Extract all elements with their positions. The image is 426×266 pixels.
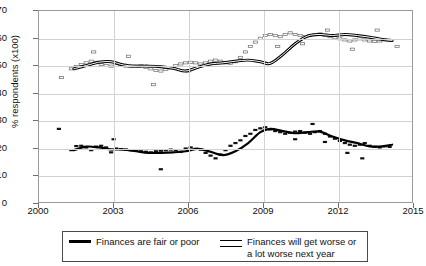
- data-point-marker: [154, 69, 158, 71]
- y-axis-tick-label: 30: [0, 115, 7, 125]
- x-axis-tick-mark: [113, 203, 114, 208]
- data-point-marker: [268, 33, 272, 35]
- data-point-marker: [149, 68, 153, 70]
- y-gridline: [39, 121, 412, 122]
- y-axis-tick-label: 70: [0, 5, 7, 15]
- data-point-marker: [253, 129, 257, 131]
- legend-item-finances-fair-or-poor: Finances are fair or poor: [69, 236, 220, 248]
- data-point-marker: [348, 144, 352, 146]
- data-point-marker: [243, 135, 247, 137]
- data-point-marker: [184, 62, 188, 64]
- data-point-marker: [300, 43, 304, 45]
- series-finances-fair-or-poor: [57, 123, 392, 170]
- y-axis-tick-mark: [33, 120, 38, 121]
- y-axis-tick-mark: [33, 175, 38, 176]
- data-point-marker: [238, 56, 242, 58]
- data-point-marker: [283, 33, 287, 35]
- data-point-marker: [238, 139, 242, 141]
- data-point-marker: [288, 32, 292, 34]
- data-point-marker: [350, 48, 354, 50]
- data-point-marker: [151, 84, 155, 86]
- y-axis-tick-label: 10: [0, 170, 7, 180]
- data-point-marker: [395, 45, 399, 47]
- x-axis-tick-mark: [338, 203, 339, 208]
- data-point-marker: [368, 40, 372, 42]
- legend-item-finances-worse-next-year: Finances will get worse or a lot worse n…: [220, 236, 361, 259]
- y-axis-tick-label: 0: [0, 198, 7, 208]
- data-point-marker: [233, 142, 237, 144]
- data-point-marker: [213, 59, 217, 61]
- y-axis-tick-label: 60: [0, 33, 7, 43]
- data-point-marker: [59, 76, 63, 78]
- series-data-points: [57, 123, 392, 170]
- plot-area: [38, 10, 413, 203]
- data-point-marker: [179, 63, 183, 65]
- hollow-line-swatch-icon: [220, 240, 242, 247]
- data-point-marker: [204, 152, 208, 154]
- solid-line-swatch-icon: [69, 240, 91, 243]
- x-axis-tick-mark: [188, 203, 189, 208]
- y-gridline: [39, 149, 412, 150]
- x-axis-tick-mark: [413, 203, 414, 208]
- y-gridline: [39, 39, 412, 40]
- x-axis-tick-mark: [263, 203, 264, 208]
- series-data-points: [59, 29, 399, 86]
- y-axis-tick-mark: [33, 10, 38, 11]
- x-gridline: [339, 11, 340, 202]
- y-axis-tick-label: 50: [0, 60, 7, 70]
- data-point-marker: [325, 29, 329, 31]
- series-finances-worse-next-year: [59, 29, 399, 86]
- x-gridline: [114, 11, 115, 202]
- data-point-marker: [293, 138, 297, 140]
- data-point-marker: [243, 51, 247, 53]
- data-point-marker: [273, 34, 277, 36]
- data-point-marker: [360, 157, 364, 159]
- data-point-marker: [258, 127, 262, 129]
- legend-label: Finances are fair or poor: [96, 236, 200, 248]
- y-gridline: [39, 94, 412, 95]
- data-point-marker: [373, 40, 377, 42]
- chart-legend: Finances are fair or poor Finances will …: [62, 231, 368, 262]
- data-point-marker: [253, 41, 257, 43]
- x-gridline: [264, 11, 265, 202]
- y-gridline: [39, 176, 412, 177]
- chart-canvas: [39, 11, 412, 202]
- data-point-marker: [89, 60, 93, 62]
- data-point-marker: [126, 55, 130, 57]
- y-axis-tick-label: 40: [0, 88, 7, 98]
- y-axis-tick-label: 20: [0, 143, 7, 153]
- chart-container: % respondents (x100) 0102030405060702000…: [0, 0, 426, 266]
- data-point-marker: [208, 155, 212, 157]
- y-axis-tick-mark: [33, 148, 38, 149]
- trend-line: [74, 129, 392, 155]
- y-gridline: [39, 66, 412, 67]
- legend-label: Finances will get worse or a lot worse n…: [247, 236, 361, 259]
- data-point-marker: [92, 51, 96, 53]
- y-axis-tick-mark: [33, 38, 38, 39]
- data-point-marker: [228, 145, 232, 147]
- data-point-marker: [159, 70, 163, 72]
- data-point-marker: [348, 40, 352, 42]
- x-gridline: [189, 11, 190, 202]
- data-point-marker: [248, 45, 252, 47]
- y-axis-tick-mark: [33, 93, 38, 94]
- x-axis-tick-mark: [38, 203, 39, 208]
- data-point-marker: [57, 128, 61, 130]
- data-point-marker: [278, 36, 282, 38]
- data-point-marker: [159, 150, 163, 152]
- data-point-marker: [375, 29, 379, 31]
- data-point-marker: [345, 152, 349, 154]
- data-point-marker: [343, 142, 347, 144]
- data-point-marker: [298, 34, 302, 36]
- data-point-marker: [84, 62, 88, 64]
- data-point-marker: [353, 145, 357, 147]
- data-point-marker: [208, 60, 212, 62]
- data-point-marker: [213, 157, 217, 159]
- y-axis-label: % respondents (x100): [9, 0, 20, 182]
- data-point-marker: [323, 141, 327, 143]
- data-point-marker: [283, 133, 287, 135]
- data-point-marker: [276, 45, 280, 47]
- data-point-marker: [74, 145, 78, 147]
- data-point-marker: [194, 62, 198, 64]
- data-point-marker: [293, 33, 297, 35]
